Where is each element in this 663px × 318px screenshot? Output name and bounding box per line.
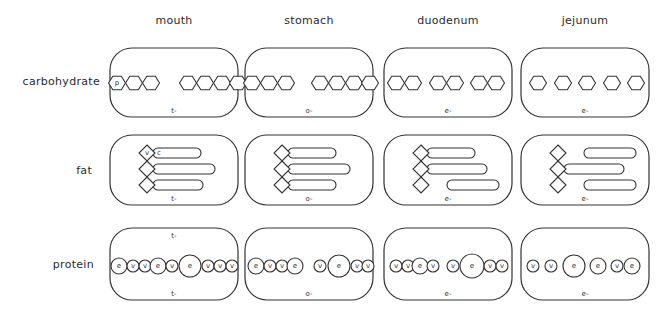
fatty-acid-chain xyxy=(288,180,336,190)
amino-acid-label: v xyxy=(488,262,492,270)
sugar-hexagon-icon xyxy=(261,76,278,90)
sugar-hexagon-icon xyxy=(180,76,197,90)
amino-acid-label: e xyxy=(418,262,422,270)
charge-label: e- xyxy=(582,107,589,115)
sugar-hexagon-icon xyxy=(555,76,572,90)
fatty-acid-chain xyxy=(584,180,636,190)
cell-protein-jejunum: e-vveeve xyxy=(521,228,649,300)
sugar-hexagon-icon xyxy=(530,76,547,90)
glycerol-diamond-icon xyxy=(413,177,429,193)
amino-acid-label: e xyxy=(188,262,192,270)
charge-label: e- xyxy=(445,290,452,298)
fatty-acid-chain xyxy=(564,164,624,174)
sugar-hexagon-icon xyxy=(471,76,488,90)
amino-acid-label: v xyxy=(500,262,504,270)
amino-acid-label: v xyxy=(451,262,455,270)
charge-label: e- xyxy=(445,195,452,203)
fatty-acid-chain xyxy=(288,148,336,158)
sugar-hexagon-icon xyxy=(388,76,405,90)
glycerol-diamond-icon xyxy=(274,161,290,177)
fatty-acid-chain xyxy=(427,148,475,158)
amino-acid-label: v xyxy=(394,262,398,270)
glycerol-diamond-icon xyxy=(413,161,429,177)
cell-fat-mouth: t-cv xyxy=(110,135,238,205)
sugar-hexagon-icon xyxy=(488,76,505,90)
sugar-hexagon-icon xyxy=(214,76,231,90)
amino-acid-label: e xyxy=(596,262,600,270)
glycerol-diamond-icon xyxy=(274,145,290,161)
amino-acid-label: e xyxy=(254,262,258,270)
sugar-hexagon-icon xyxy=(430,76,447,90)
cell-protein-mouth: t-t-evvevevvv xyxy=(110,228,238,300)
fatty-acid-chain xyxy=(153,164,215,174)
sugar-hexagon-icon xyxy=(278,76,295,90)
chain-label: c xyxy=(157,149,161,157)
cell-fat-stomach: o- xyxy=(245,135,373,205)
amino-acid-label: v xyxy=(431,262,435,270)
charge-label: t- xyxy=(171,195,177,203)
glycerol-diamond-icon xyxy=(550,145,566,161)
amino-acid-label: v xyxy=(131,262,135,270)
charge-label: o- xyxy=(306,290,313,298)
sugar-hexagon-icon xyxy=(628,76,645,90)
amino-acid-label: v xyxy=(268,262,272,270)
cell-fat-jejunum: e- xyxy=(521,135,649,205)
sugar-hexagon-icon xyxy=(447,76,464,90)
charge-label: t- xyxy=(171,290,177,298)
amino-acid-label: v xyxy=(366,262,370,270)
fatty-acid-chain xyxy=(153,180,203,190)
sugar-hexagon-icon xyxy=(197,76,214,90)
sugar-hexagon-icon xyxy=(405,76,422,90)
cell-protein-duodenum: e-vvevvevv xyxy=(384,228,512,300)
amino-acid-label: v xyxy=(406,262,410,270)
fatty-acid-chain xyxy=(584,148,636,158)
sugar-hexagon-icon xyxy=(143,76,160,90)
amino-acid-label: v xyxy=(170,262,174,270)
cell-fat-duodenum: e- xyxy=(384,135,512,205)
amino-acid-label: v xyxy=(280,262,284,270)
amino-acid-label: v xyxy=(218,262,222,270)
amino-acid-label: v xyxy=(549,262,553,270)
charge-label: e- xyxy=(445,107,452,115)
amino-acid-label: e xyxy=(117,262,121,270)
fatty-acid-chain xyxy=(447,180,499,190)
hexagon-label: p xyxy=(115,79,120,87)
sugar-hexagon-icon xyxy=(579,76,596,90)
charge-label-top: t- xyxy=(171,232,177,240)
sugar-hexagon-icon xyxy=(126,76,143,90)
digestion-diagram: t-po-e-e-t-cvo-e-e-t-t-evvevevvvo-evveve… xyxy=(0,0,663,318)
cell-protein-stomach: o-evvevevv xyxy=(245,228,374,300)
glycerol-diamond-icon xyxy=(274,177,290,193)
sugar-hexagon-icon xyxy=(346,76,363,90)
cell-carbohydrate-jejunum: e- xyxy=(521,48,649,117)
amino-acid-label: e xyxy=(470,262,474,270)
sugar-hexagon-icon xyxy=(244,76,261,90)
sugar-hexagon-icon xyxy=(312,76,329,90)
amino-acid-label: v xyxy=(531,262,535,270)
amino-acid-label: v xyxy=(355,262,359,270)
amino-acid-label: v xyxy=(143,262,147,270)
sugar-hexagon-icon xyxy=(604,76,621,90)
cell-carbohydrate-stomach: o- xyxy=(244,48,379,117)
amino-acid-label: v xyxy=(318,262,322,270)
charge-label: t- xyxy=(171,107,177,115)
cell-carbohydrate-duodenum: e- xyxy=(384,48,512,117)
amino-acid-label: v xyxy=(230,262,234,270)
charge-label: e- xyxy=(582,290,589,298)
amino-acid-label: e xyxy=(156,262,160,270)
charge-label: o- xyxy=(306,107,313,115)
charge-label: o- xyxy=(306,195,313,203)
amino-acid-label: e xyxy=(293,262,297,270)
cell-carbohydrate-mouth: t-p xyxy=(109,48,247,117)
glycerol-diamond-icon xyxy=(550,161,566,177)
sugar-hexagon-icon xyxy=(329,76,346,90)
sugar-hexagon-icon xyxy=(362,76,379,90)
diamond-label: v xyxy=(145,149,149,157)
amino-acid-label: v xyxy=(615,262,619,270)
glycerol-diamond-icon xyxy=(139,161,155,177)
amino-acid-label: e xyxy=(630,262,634,270)
glycerol-diamond-icon xyxy=(139,177,155,193)
amino-acid-label: e xyxy=(572,262,576,270)
amino-acid-label: e xyxy=(337,262,341,270)
glycerol-diamond-icon xyxy=(550,177,566,193)
